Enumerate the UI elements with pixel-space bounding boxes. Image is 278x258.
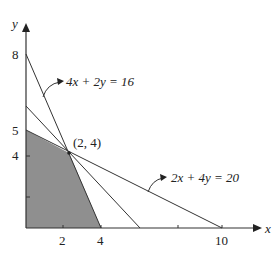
arrow-to-line-1 [43, 82, 60, 97]
intersection-point [67, 151, 71, 155]
y-tick-8: 8 [12, 48, 19, 61]
y-axis-label: y [12, 17, 18, 30]
constraint-label-1: 4x + 2y = 16 [66, 75, 134, 88]
point-label: (2, 4) [73, 136, 101, 149]
constraint-label-2: 2x + 4y = 20 [171, 171, 239, 184]
y-axis-arrow-icon [22, 23, 30, 32]
y-tick-4: 4 [12, 149, 19, 162]
lp-graph [0, 0, 278, 258]
x-tick-4: 4 [97, 234, 104, 247]
x-tick-2: 2 [59, 234, 66, 247]
x-axis-arrow-icon [253, 224, 262, 232]
x-tick-10: 10 [215, 234, 228, 247]
arrow-to-line-2 [148, 178, 163, 192]
x-axis-label: x [265, 222, 271, 235]
y-tick-5: 5 [12, 124, 19, 137]
